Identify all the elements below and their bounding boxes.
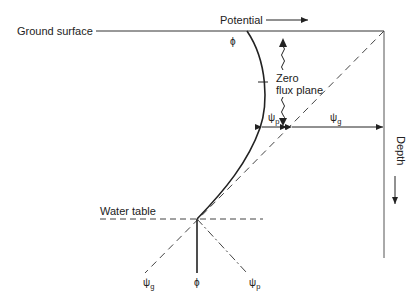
psi-g-bottom-label: ψg <box>143 277 154 291</box>
phi-bottom-label: ϕ <box>194 277 200 288</box>
ground-surface-label: Ground surface <box>17 25 93 37</box>
phi-top-label: ϕ <box>230 36 236 47</box>
downward-flux-wavy-line <box>282 97 285 119</box>
zero-flux-label-line2: flux plane <box>276 84 323 96</box>
soil-water-potential-diagram: Ground surface Potential Depth ϕ Zero fl… <box>0 0 415 298</box>
zero-flux-label-line1: Zero <box>276 72 299 84</box>
upward-arrowhead-icon <box>279 38 287 47</box>
downward-arrowhead-icon <box>279 118 287 126</box>
psi-g-mid-label: ψg <box>330 112 341 126</box>
psi-p-bottom-label: ψp <box>249 277 260 291</box>
psi-p-mid-label: ψp <box>268 112 279 126</box>
total-potential-curve <box>197 31 265 219</box>
potential-axis-label: Potential <box>220 14 263 26</box>
gravitational-potential-line <box>145 31 384 273</box>
water-table-label: Water table <box>100 205 156 217</box>
depth-axis-label: Depth <box>395 136 407 165</box>
pressure-potential-below-water-table <box>197 219 246 272</box>
upward-flux-wavy-line <box>282 46 285 70</box>
